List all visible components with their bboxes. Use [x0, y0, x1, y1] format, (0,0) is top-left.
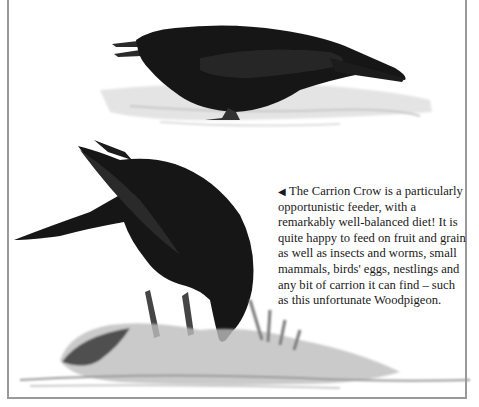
- pointer-left-icon: ◀: [278, 186, 286, 197]
- caption: ◀The Carrion Crow is a particularly oppo…: [278, 184, 468, 309]
- woodpigeon-carcass-icon: [20, 300, 470, 388]
- crow-feeding-icon: [14, 140, 254, 342]
- caption-text: The Carrion Crow is a particularly oppor…: [278, 184, 466, 307]
